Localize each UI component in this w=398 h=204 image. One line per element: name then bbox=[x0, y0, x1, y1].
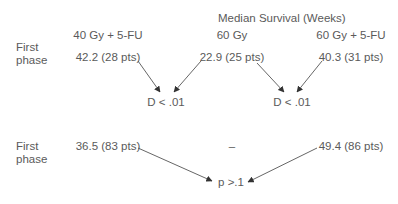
arrow-row2-right-to-bottom-pvalue bbox=[248, 148, 317, 182]
arrow-60gy-to-right-pvalue bbox=[257, 63, 284, 92]
arrow-row2-left-to-bottom-pvalue bbox=[138, 148, 212, 181]
arrows bbox=[0, 0, 398, 204]
arrow-40gy-to-left-pvalue bbox=[138, 61, 160, 92]
arrow-60gy-to-left-pvalue bbox=[174, 61, 201, 92]
diagram: Median Survival (Weeks) 40 Gy + 5-FU 60 … bbox=[0, 0, 398, 204]
arrow-60gy5fu-to-right-pvalue bbox=[297, 61, 322, 92]
